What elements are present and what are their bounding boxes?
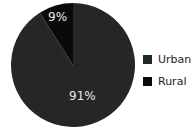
legend-swatch-rural [143, 77, 152, 86]
slice-label-urban: 91% [69, 90, 96, 102]
legend-item-rural: Rural [143, 74, 191, 88]
legend: Urban Rural [143, 52, 191, 96]
pie-chart: 9% 91% [10, 2, 136, 128]
slice-label-rural: 9% [48, 11, 67, 23]
pie-svg [10, 2, 136, 128]
legend-label-rural: Rural [158, 75, 186, 88]
legend-label-urban: Urban [158, 53, 191, 66]
legend-item-urban: Urban [143, 52, 191, 66]
legend-swatch-urban [143, 55, 152, 64]
